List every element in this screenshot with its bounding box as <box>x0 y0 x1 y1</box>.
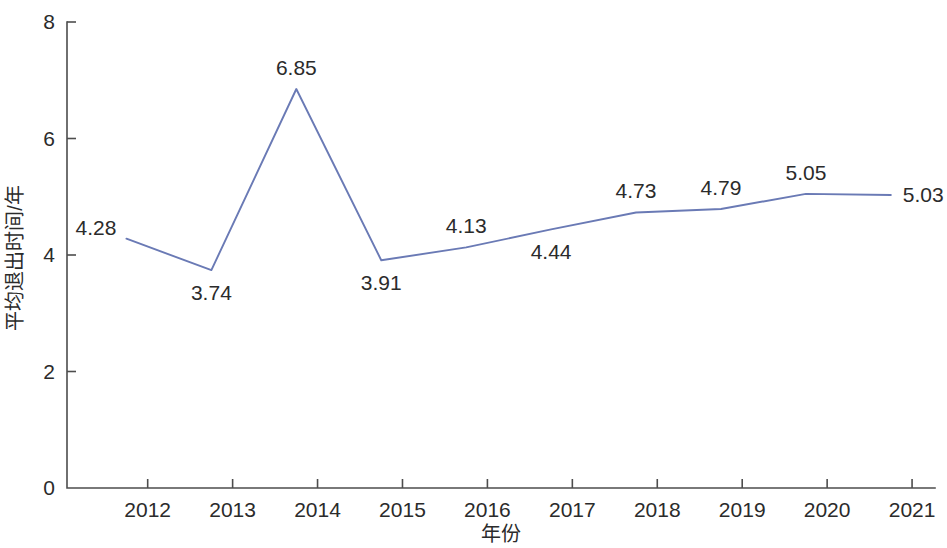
x-tick-label: 2014 <box>294 498 341 521</box>
x-tick-label: 2018 <box>634 498 681 521</box>
data-point-label: 4.44 <box>531 240 572 263</box>
data-point-label: 4.79 <box>701 176 742 199</box>
chart-canvas: 02468 2012201320142015201620172018201920… <box>0 0 947 548</box>
x-axis-title: 年份 <box>481 523 521 545</box>
x-tick-label: 2015 <box>379 498 426 521</box>
y-tick-label: 2 <box>43 360 55 383</box>
x-tick-label: 2013 <box>209 498 256 521</box>
y-tick-label: 8 <box>43 10 55 33</box>
x-tick-label: 2016 <box>464 498 511 521</box>
data-point-label: 4.13 <box>446 214 487 237</box>
x-tick-label: 2012 <box>124 498 171 521</box>
data-point-label: 4.28 <box>76 216 117 239</box>
x-tick-label: 2021 <box>889 498 936 521</box>
x-tick-label: 2019 <box>719 498 766 521</box>
data-point-label: 5.05 <box>785 161 826 184</box>
data-point-label: 3.74 <box>191 281 232 304</box>
data-point-label: 6.85 <box>276 56 317 79</box>
x-tick-label: 2020 <box>804 498 851 521</box>
y-tick-label: 6 <box>43 127 55 150</box>
line-chart: 02468 2012201320142015201620172018201920… <box>0 0 947 548</box>
data-point-label: 5.03 <box>903 183 944 206</box>
y-axis-title: 平均退出时间/年 <box>4 185 26 331</box>
y-tick-label: 0 <box>43 476 55 499</box>
data-point-label: 4.73 <box>616 179 657 202</box>
chart-background <box>0 0 947 548</box>
x-tick-label: 2017 <box>549 498 596 521</box>
y-tick-label: 4 <box>43 243 55 266</box>
data-point-label: 3.91 <box>361 271 402 294</box>
